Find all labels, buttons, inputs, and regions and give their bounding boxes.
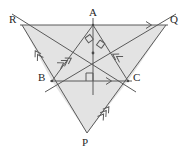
- vertex-point-A: [92, 24, 94, 26]
- geometry-figure: A B C P Q R: [0, 0, 186, 155]
- shaded-region-lower: [52, 81, 128, 133]
- vertex-label-R: R: [9, 14, 16, 25]
- vertex-label-A: A: [89, 7, 97, 18]
- vertex-label-P: P: [82, 137, 88, 148]
- vertex-label-B: B: [38, 72, 45, 83]
- vertex-point-C: [127, 80, 129, 82]
- vertex-point-B: [51, 80, 53, 82]
- vertex-label-C: C: [133, 72, 140, 83]
- orthocenter-point: [92, 52, 95, 55]
- figure-canvas: [0, 0, 186, 155]
- vertex-label-Q: Q: [170, 14, 178, 25]
